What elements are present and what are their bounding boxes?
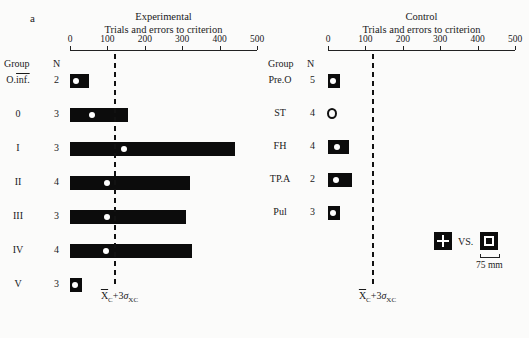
n-value: 3 xyxy=(54,278,59,289)
range-bar xyxy=(70,176,190,190)
n-header: N xyxy=(307,58,314,69)
tick-label: 100 xyxy=(358,34,372,44)
axis-tick xyxy=(365,46,366,50)
scale-bar xyxy=(480,254,500,258)
criterion-line xyxy=(114,54,116,288)
group-header: Group xyxy=(268,58,294,69)
n-value: 3 xyxy=(54,142,59,153)
tick-label: 500 xyxy=(250,34,264,44)
axis-tick xyxy=(515,46,516,50)
n-value: 3 xyxy=(54,108,59,119)
tick-label: 200 xyxy=(396,34,410,44)
mean-dot xyxy=(89,112,95,118)
range-bar xyxy=(70,108,128,122)
square-stimulus-icon xyxy=(480,232,498,250)
control-xlabel: Trials and errors to criterion xyxy=(328,24,515,35)
criterion-label: XC+3σXC xyxy=(101,290,138,304)
panel-label: a xyxy=(30,12,35,24)
control-title: Control xyxy=(328,11,515,22)
range-bar xyxy=(70,278,82,292)
axis-tick xyxy=(478,46,479,50)
range-bar xyxy=(328,173,352,187)
range-bar xyxy=(328,140,349,154)
group-label: IV xyxy=(0,244,36,255)
mean-dot xyxy=(121,146,127,152)
range-bar xyxy=(328,206,340,220)
criterion-line xyxy=(372,54,374,288)
tick-label: 400 xyxy=(212,34,226,44)
group-header: Group xyxy=(4,58,30,69)
tick-label: 0 xyxy=(326,34,331,44)
n-value: 4 xyxy=(310,107,315,118)
mean-dot xyxy=(72,282,78,288)
n-value: 5 xyxy=(310,74,315,85)
tick-label: 100 xyxy=(100,34,114,44)
mean-dot xyxy=(104,180,110,186)
tick-label: 0 xyxy=(68,34,73,44)
group-label: II xyxy=(0,176,36,187)
axis-line xyxy=(328,50,515,51)
tick-label: 200 xyxy=(138,34,152,44)
group-label: ST xyxy=(262,107,298,118)
axis-tick xyxy=(328,46,329,50)
mean-dot xyxy=(73,78,79,84)
scale-label: 75 mm xyxy=(476,260,503,270)
axis-tick xyxy=(403,46,404,50)
mean-dot xyxy=(334,144,340,150)
group-label: Pre.O xyxy=(262,74,298,85)
range-bar xyxy=(70,210,186,224)
experimental-xlabel: Trials and errors to criterion xyxy=(70,24,257,35)
n-value: 4 xyxy=(54,176,59,187)
n-value: 4 xyxy=(310,140,315,151)
n-header: N xyxy=(53,58,60,69)
mean-dot xyxy=(333,177,339,183)
group-label: III xyxy=(0,210,36,221)
vs-label: VS. xyxy=(458,236,473,247)
group-label: 0 xyxy=(0,108,36,119)
group-label: O.inf. xyxy=(0,74,36,85)
tick-label: 500 xyxy=(508,34,522,44)
axis-tick xyxy=(220,46,221,50)
n-value: 2 xyxy=(54,74,59,85)
axis-tick xyxy=(70,46,71,50)
group-label: I xyxy=(0,142,36,153)
axis-tick xyxy=(182,46,183,50)
group-label: FH xyxy=(262,140,298,151)
plus-stimulus-icon xyxy=(434,232,452,250)
axis-tick xyxy=(145,46,146,50)
mean-dot xyxy=(104,214,110,220)
n-value: 3 xyxy=(310,206,315,217)
tick-label: 400 xyxy=(470,34,484,44)
range-bar xyxy=(70,74,89,88)
group-label: TP.A xyxy=(262,173,298,184)
range-bar xyxy=(70,142,235,156)
group-label: V xyxy=(0,278,36,289)
n-value: 2 xyxy=(310,173,315,184)
mean-dot xyxy=(103,248,109,254)
n-value: 3 xyxy=(54,210,59,221)
n-value: 4 xyxy=(54,244,59,255)
range-marker-icon xyxy=(327,108,337,119)
tick-label: 300 xyxy=(175,34,189,44)
axis-line xyxy=(70,50,257,51)
axis-tick xyxy=(440,46,441,50)
range-bar xyxy=(328,74,340,88)
range-bar xyxy=(70,244,192,258)
axis-tick xyxy=(257,46,258,50)
criterion-label: XC+3σXC xyxy=(359,290,396,304)
experimental-title: Experimental xyxy=(70,11,257,22)
mean-dot xyxy=(330,210,336,216)
tick-label: 300 xyxy=(433,34,447,44)
mean-dot xyxy=(330,78,336,84)
axis-tick xyxy=(107,46,108,50)
group-label: Pul xyxy=(262,206,298,217)
